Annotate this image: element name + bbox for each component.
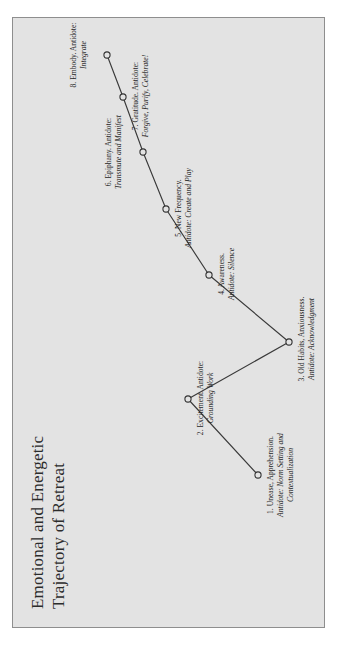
data-label-1-line-1: 1. Unease, Apprehension. [266,409,276,541]
data-label-1: 1. Unease, Apprehension. Antidote: Norm … [266,409,296,541]
data-label-8: 8. Embody. Antidote: Integrate [69,17,89,119]
data-label-5-line-2: Antidote: Create and Play [184,141,194,275]
data-point-3[interactable] [286,339,292,345]
data-label-4-line-1: 4. Awareness. [217,215,227,333]
data-label-4: 4. Awareness. Antidote: Silence [217,215,237,333]
data-label-3: 3. Old Habits, Anxiousness. Antidote: Ac… [297,269,317,409]
data-label-6-line-2: Transmute and Manifest [114,87,124,217]
data-label-2-line-1: 2. Excitement. Antidote: [196,333,206,463]
data-point-2[interactable] [185,396,191,402]
data-point-1[interactable] [255,472,261,478]
data-label-1-line-2: Antidote: Norm Setting and [276,409,286,541]
data-label-7: 7. Gratitude. Antidote: Forgive, Purify,… [131,31,151,161]
data-point-5[interactable] [163,206,169,212]
data-point-8[interactable] [104,52,110,58]
data-label-7-line-2: Forgive, Purify, Celebrate! [141,31,151,161]
data-label-2: 2. Excitement. Antidote: Grounding Work [196,333,216,463]
data-label-1-line-3: Contextualization [286,409,296,541]
data-label-6-line-1: 6. Epiphany. Antidote: [104,87,114,217]
rotated-chart-canvas: Emotional and Energetic Trajectory of Re… [13,18,324,627]
chart-slide: Emotional and Energetic Trajectory of Re… [12,17,325,628]
data-label-3-line-2: Antidote: Acknowledgment [307,269,317,409]
data-label-2-line-2: Grounding Work [206,333,216,463]
data-label-3-line-1: 3. Old Habits, Anxiousness. [297,269,307,409]
data-label-4-line-2: Antidote: Silence [227,215,237,333]
data-label-5-line-1: 5. New Frequency. [174,141,184,275]
data-point-4[interactable] [206,272,212,278]
screenshot-page: Emotional and Energetic Trajectory of Re… [0,0,337,645]
data-label-6: 6. Epiphany. Antidote: Transmute and Man… [104,87,124,217]
data-label-5: 5. New Frequency. Antidote: Create and P… [174,141,194,275]
data-label-8-line-1: 8. Embody. Antidote: [69,17,79,119]
data-label-8-line-2: Integrate [79,17,89,119]
data-label-7-line-1: 7. Gratitude. Antidote: [131,31,141,161]
